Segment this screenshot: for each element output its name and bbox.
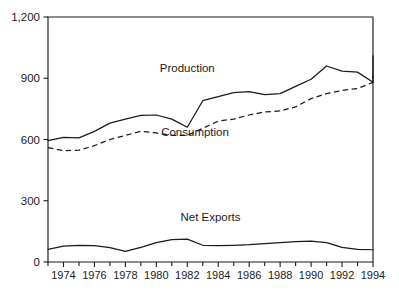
y-axis: 03006009001,200 bbox=[11, 11, 48, 268]
x-tick-label: 1976 bbox=[82, 269, 106, 281]
x-tick-label: 1986 bbox=[237, 269, 261, 281]
x-axis: 1974197619781980198219841986198819901992… bbox=[48, 262, 385, 281]
y-tick-label: 1,200 bbox=[11, 11, 40, 23]
x-tick-label: 1974 bbox=[51, 269, 75, 281]
x-tick-label: 1980 bbox=[144, 269, 168, 281]
series-label: Consumption bbox=[161, 126, 229, 138]
chart-figure: 03006009001,2001974197619781980198219841… bbox=[0, 0, 399, 296]
x-tick-label: 1992 bbox=[330, 269, 354, 281]
x-tick-label: 1984 bbox=[206, 269, 230, 281]
y-tick-label: 300 bbox=[21, 195, 40, 207]
x-tick-label: 1994 bbox=[361, 269, 385, 281]
series-line-consumption bbox=[48, 75, 373, 151]
series-label: Production bbox=[160, 62, 215, 74]
x-tick-label: 1978 bbox=[113, 269, 137, 281]
x-tick-label: 1990 bbox=[299, 269, 323, 281]
series-line-net-exports bbox=[48, 239, 373, 251]
y-tick-label: 0 bbox=[34, 256, 40, 268]
x-tick-label: 1988 bbox=[268, 269, 292, 281]
line-chart: 03006009001,2001974197619781980198219841… bbox=[0, 0, 399, 296]
plot-frame bbox=[48, 17, 373, 262]
series-label: Net Exports bbox=[180, 211, 240, 223]
y-tick-label: 600 bbox=[21, 134, 40, 146]
y-tick-label: 900 bbox=[21, 72, 40, 84]
x-tick-label: 1982 bbox=[175, 269, 199, 281]
